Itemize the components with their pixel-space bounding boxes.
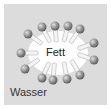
water-label: Wasser (10, 86, 47, 98)
core-label: Fett (46, 46, 65, 58)
